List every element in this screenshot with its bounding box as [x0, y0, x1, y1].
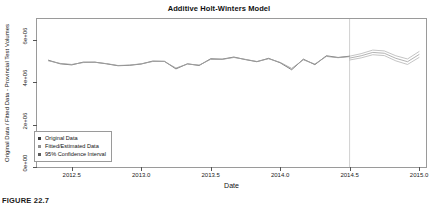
y-axis-label-text: Original Data / Fitted Data - Provincial…	[4, 24, 10, 162]
x-tick-mark	[141, 167, 142, 171]
legend-square-icon	[38, 145, 41, 148]
y-tick-label: 6e+06	[23, 28, 29, 45]
figure-caption: FIGURE 22.7	[2, 196, 49, 205]
x-tick-label: 2013.5	[201, 172, 219, 178]
x-tick-label: 2013.0	[132, 172, 150, 178]
x-tick-mark	[419, 167, 420, 171]
x-tick-mark	[211, 167, 212, 171]
y-tick-label: 4e+06	[23, 70, 29, 87]
y-tick-label: 2e+06	[23, 112, 29, 129]
y-axis-label: Original Data / Fitted Data - Provincial…	[2, 18, 12, 168]
legend-item-label: Original Data	[45, 134, 78, 142]
legend-square-icon	[38, 153, 41, 156]
y-tick-mark	[33, 125, 37, 126]
y-tick-label: 0e+00	[23, 155, 29, 172]
legend-item: 95% Confidence Interval	[38, 150, 106, 158]
legend-item-label: 95% Confidence Interval	[45, 150, 106, 158]
x-axis-label: Date	[36, 182, 427, 189]
x-tick-label: 2015.0	[410, 172, 428, 178]
x-tick-label: 2012.5	[63, 172, 81, 178]
legend-item: Original Data	[38, 134, 106, 142]
y-tick-mark	[33, 40, 37, 41]
y-tick-mark	[33, 82, 37, 83]
legend-item: Fitted/Estimated Data	[38, 142, 106, 150]
series-line-95-confidence-interval-upper	[350, 50, 419, 59]
x-tick-mark	[350, 167, 351, 171]
x-tick-mark	[280, 167, 281, 171]
series-line-fitted-estimated-data	[49, 56, 350, 68]
figure-container: Additive Holt-Winters Model Original Dat…	[0, 0, 438, 206]
page-title: Additive Holt-Winters Model	[0, 4, 438, 13]
chart-legend: Original DataFitted/Estimated Data95% Co…	[34, 131, 112, 162]
x-tick-label: 2014.5	[340, 172, 358, 178]
y-tick-mark	[33, 167, 37, 168]
x-tick-label: 2014.0	[271, 172, 289, 178]
x-tick-mark	[72, 167, 73, 171]
legend-item-label: Fitted/Estimated Data	[45, 142, 99, 150]
legend-square-icon	[38, 137, 41, 140]
